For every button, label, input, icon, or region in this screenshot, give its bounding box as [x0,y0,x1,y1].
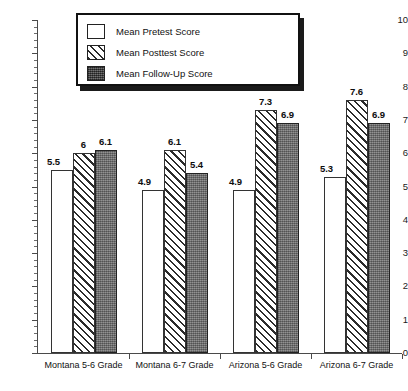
y-tick-minor [34,60,37,61]
y-tick-minor [34,233,37,234]
y-tick-major [32,320,37,321]
y-tick-minor [34,47,37,48]
y-tick-minor [34,313,37,314]
bar-chart: 012345678910 5.566.14.96.15.44.97.36.95.… [0,0,408,391]
x-tick [402,354,403,359]
y-tick-minor [34,280,37,281]
y-tick-minor [34,246,37,247]
y-tick-minor [34,260,37,261]
y-tick-minor [34,266,37,267]
legend-item-pretest: Mean Pretest Score [87,22,200,40]
legend-swatch-pretest-icon [87,24,105,39]
bar-followup-group-3 [277,123,299,353]
bar-value-label: 4.9 [127,177,163,187]
x-tick [311,354,312,359]
y-tick-major [32,120,37,121]
y-tick-minor [34,293,37,294]
y-tick-minor [34,93,37,94]
y-tick-major [32,53,37,54]
y-tick-minor [34,333,37,334]
bar-value-label: 6.1 [88,137,124,147]
y-tick-minor [34,173,37,174]
bar-pretest-group-3 [233,190,255,353]
bar-followup-group-4 [368,123,390,353]
bar-value-label: 5.3 [309,164,345,174]
y-tick-minor [34,306,37,307]
legend-item-followup: Mean Follow-Up Score [87,64,213,82]
y-tick-minor [34,107,37,108]
y-tick-major [32,353,37,354]
bar-value-label: 7.6 [339,87,375,97]
x-tick [220,354,221,359]
y-tick-minor [34,100,37,101]
bar-posttest-group-1 [73,153,95,353]
y-tick-minor [34,326,37,327]
bar-posttest-group-2 [164,150,186,353]
bar-value-label: 5.4 [179,160,215,170]
bar-value-label: 4.9 [218,177,254,187]
y-tick-minor [34,80,37,81]
legend-label-posttest: Mean Posttest Score [116,47,204,58]
y-tick-minor [34,200,37,201]
bar-posttest-group-4 [346,100,368,353]
y-tick-major [32,253,37,254]
chart-legend: Mean Pretest Score Mean Posttest Score M… [76,13,300,86]
bar-value-label: 6.9 [270,110,306,120]
y-tick-major [32,20,37,21]
legend-label-pretest: Mean Pretest Score [116,26,200,37]
y-tick-minor [34,180,37,181]
bar-followup-group-2 [186,173,208,353]
y-tick-minor [34,67,37,68]
x-axis-category-label: Montana 5-6 Grade [38,360,129,370]
y-tick-label: 8 [382,82,408,92]
bar-pretest-group-1 [51,170,73,353]
y-tick-major [32,187,37,188]
y-tick-major [32,87,37,88]
y-tick-minor [34,33,37,34]
legend-swatch-followup-icon [87,66,105,81]
y-tick-minor [34,27,37,28]
y-tick-minor [34,340,37,341]
bar-value-label: 6.1 [157,137,193,147]
y-tick-minor [34,113,37,114]
bar-value-label: 5.5 [36,157,72,167]
y-tick-major [32,220,37,221]
y-tick-minor [34,240,37,241]
y-tick-minor [34,73,37,74]
y-tick-minor [34,213,37,214]
bar-pretest-group-4 [324,177,346,353]
bar-followup-group-1 [95,150,117,353]
y-tick-minor [34,127,37,128]
x-axis-category-label: Montana 6-7 Grade [129,360,220,370]
bar-value-label: 7.3 [248,97,284,107]
y-tick-minor [34,193,37,194]
y-tick-minor [34,140,37,141]
bar-posttest-group-3 [255,110,277,353]
y-tick-minor [34,147,37,148]
y-tick-minor [34,300,37,301]
y-tick-major [32,286,37,287]
y-tick-label: 10 [382,15,408,25]
y-tick-minor [34,226,37,227]
y-tick-label: 9 [382,48,408,58]
y-tick-major [32,153,37,154]
x-axis-category-label: Arizona 5-6 Grade [220,360,311,370]
y-tick-minor [34,273,37,274]
y-tick-minor [34,40,37,41]
x-tick [129,354,130,359]
legend-swatch-posttest-icon [87,45,105,60]
x-axis-category-label: Arizona 6-7 Grade [311,360,402,370]
legend-item-posttest: Mean Posttest Score [87,43,204,61]
y-tick-minor [34,346,37,347]
y-axis-line [37,20,38,354]
bar-pretest-group-2 [142,190,164,353]
y-tick-minor [34,206,37,207]
bar-value-label: 6.9 [361,110,397,120]
y-tick-minor [34,167,37,168]
legend-label-followup: Mean Follow-Up Score [116,68,213,79]
y-tick-minor [34,133,37,134]
